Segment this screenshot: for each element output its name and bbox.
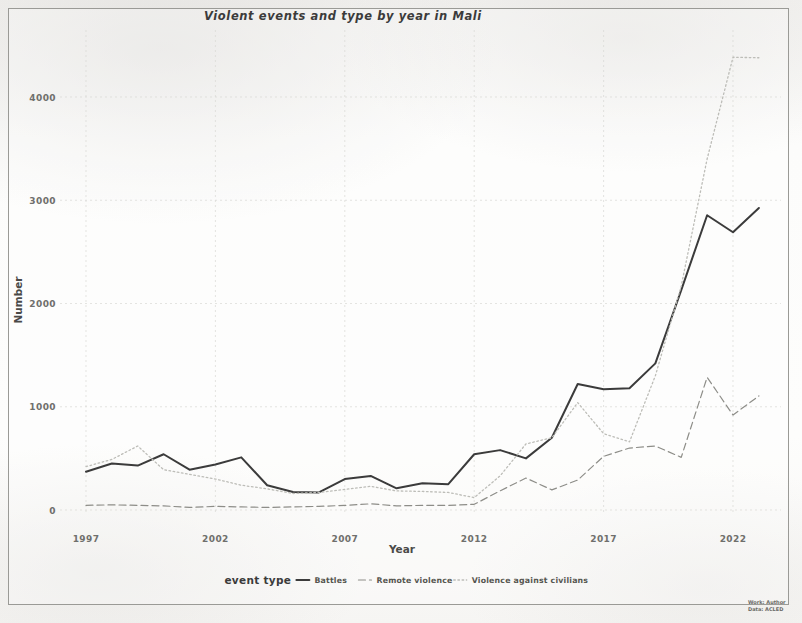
y-tick-1000: 1000: [29, 402, 56, 412]
x-tick-2002: 2002: [202, 534, 229, 544]
chart-figure: 199720022007201220172022 010002000300040…: [0, 0, 802, 623]
y-tick-3000: 3000: [29, 196, 56, 206]
x-tick-2007: 2007: [331, 534, 358, 544]
gridlines: [60, 30, 781, 512]
credit-data: Data: ACLED: [748, 606, 783, 612]
chart-title: Violent events and type by year in Mali: [204, 9, 482, 23]
x-tick-1997: 1997: [73, 534, 100, 544]
y-tick-0: 0: [49, 506, 56, 516]
legend: event typeBattlesRemote violenceViolence…: [224, 574, 588, 586]
series-lines: [86, 57, 759, 507]
legend-label-remote-violence[interactable]: Remote violence: [376, 576, 452, 585]
x-axis-label: Year: [388, 543, 416, 555]
legend-title: event type: [224, 574, 291, 586]
credit-work: Work: Author: [748, 599, 786, 605]
x-tick-2017: 2017: [590, 534, 617, 544]
legend-label-battles[interactable]: Battles: [314, 576, 347, 585]
series-line-violence-against-civilians: [86, 57, 759, 497]
y-axis-tick-labels: 01000200030004000: [29, 93, 56, 516]
series-line-battles: [86, 208, 759, 492]
y-axis-label: Number: [12, 276, 24, 324]
legend-label-violence-against-civilians[interactable]: Violence against civilians: [472, 576, 589, 585]
x-tick-2012: 2012: [461, 534, 488, 544]
x-tick-2022: 2022: [720, 534, 747, 544]
y-tick-2000: 2000: [29, 299, 56, 309]
y-tick-4000: 4000: [29, 93, 56, 103]
series-line-remote-violence: [86, 377, 759, 507]
